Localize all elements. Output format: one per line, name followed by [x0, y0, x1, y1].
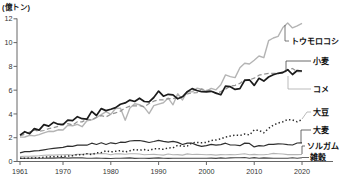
series-label-leader-corn [285, 25, 289, 41]
y-tick-label: 4 [9, 110, 13, 119]
y-tick-label: 10 [5, 38, 13, 47]
series-label-millet: 雑穀 [309, 152, 327, 162]
x-tick-label: 1961 [12, 167, 28, 176]
series-line-wheat [20, 70, 302, 135]
series-label-corn: トウモロコシ [291, 37, 339, 46]
x-tick-label: 1970 [55, 167, 71, 176]
y-tick-label: 12 [5, 14, 13, 23]
y-tick-label: 8 [9, 62, 13, 71]
x-tick-label: 1990 [151, 167, 167, 176]
y-axis-unit-label: (億トン) [2, 1, 31, 12]
y-tick-label: 2 [9, 133, 13, 142]
axis-lines [17, 19, 333, 162]
series-label-barley: 大麦 [313, 125, 330, 135]
series-label-leader-wheat [286, 61, 311, 71]
series-label-wheat: 小麦 [312, 56, 330, 66]
x-tick-label: 2000 [198, 167, 214, 176]
series-line-millet [20, 158, 302, 159]
x-tick-label: 1980 [103, 167, 119, 176]
x-tick-label: 2020 [294, 167, 310, 176]
series-label-rice: コメ [313, 85, 329, 94]
series-line-barley [20, 140, 302, 153]
x-tick-label: 2010 [246, 167, 262, 176]
series-label-sorghum: ソルガム [307, 141, 339, 151]
series-label-leader-sorghum [302, 146, 305, 154]
chart-plot-area: 0246810121961197019801990200020102020トウモ… [0, 0, 343, 187]
y-tick-label: 0 [9, 157, 13, 166]
series-line-sorghum [20, 153, 302, 156]
series-label-leader-soybean [302, 112, 311, 119]
series-line-corn [20, 23, 302, 137]
y-tick-label: 6 [9, 86, 13, 95]
series-label-leader-rice [288, 76, 311, 89]
series-label-soybean: 大豆 [313, 107, 329, 117]
crop-production-chart: 0246810121961197019801990200020102020トウモ… [0, 0, 343, 187]
